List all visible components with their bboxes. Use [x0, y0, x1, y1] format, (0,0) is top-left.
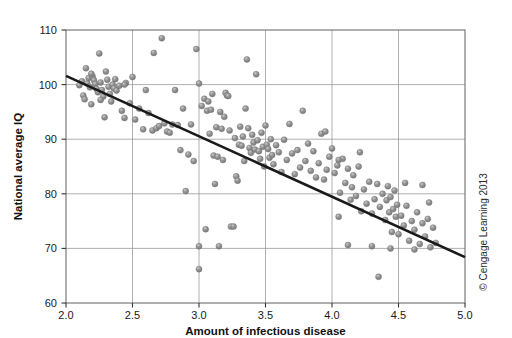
- data-point: [276, 149, 282, 155]
- data-point: [98, 79, 104, 85]
- data-point: [336, 157, 342, 163]
- data-point: [357, 149, 363, 155]
- data-point: [219, 126, 225, 132]
- data-point: [402, 180, 408, 186]
- data-point: [209, 91, 215, 97]
- scatter-plot: 2.02.53.03.54.04.55.060708090100110 Amou…: [0, 0, 512, 338]
- data-point: [244, 56, 250, 62]
- data-point: [374, 181, 380, 187]
- data-point: [350, 172, 356, 178]
- data-point: [253, 71, 259, 77]
- data-point: [191, 158, 197, 164]
- data-point: [196, 266, 202, 272]
- data-point: [196, 243, 202, 249]
- data-point: [240, 133, 246, 139]
- data-point: [377, 204, 383, 210]
- data-point: [232, 135, 238, 141]
- data-point: [245, 125, 251, 131]
- data-point: [83, 65, 89, 71]
- data-point: [334, 162, 340, 168]
- data-point: [294, 147, 300, 153]
- data-point: [82, 96, 88, 102]
- data-points: [76, 35, 438, 280]
- data-point: [122, 82, 128, 88]
- data-point: [326, 154, 332, 160]
- y-axis-title: National average IQ: [12, 113, 24, 220]
- data-point: [130, 74, 136, 80]
- data-point: [414, 209, 420, 215]
- data-point: [369, 243, 375, 249]
- data-point: [361, 186, 367, 192]
- data-point: [103, 69, 109, 75]
- data-point: [389, 229, 395, 235]
- data-point: [427, 244, 433, 250]
- data-point: [207, 131, 213, 137]
- data-point: [394, 202, 400, 208]
- x-tick-label: 5.0: [457, 309, 472, 321]
- data-point: [396, 231, 402, 237]
- y-tick-label: 70: [45, 242, 57, 254]
- data-point: [353, 193, 359, 199]
- data-point: [119, 108, 125, 114]
- data-point: [225, 93, 231, 99]
- data-point: [167, 130, 173, 136]
- x-tick-label: 3.0: [191, 309, 206, 321]
- data-point: [336, 214, 342, 220]
- credit-line: © Cengage Learning 2013: [478, 173, 489, 291]
- data-point: [345, 242, 351, 248]
- data-point: [143, 87, 149, 93]
- data-point: [112, 76, 118, 82]
- data-point: [172, 87, 178, 93]
- data-point: [96, 50, 102, 56]
- data-point: [177, 147, 183, 153]
- data-point: [322, 129, 328, 135]
- data-point: [156, 123, 162, 129]
- data-point: [185, 151, 191, 157]
- data-point: [263, 123, 269, 129]
- data-point: [286, 121, 292, 127]
- data-point: [308, 168, 314, 174]
- y-tick-label: 80: [45, 188, 57, 200]
- data-point: [409, 218, 415, 224]
- data-point: [140, 126, 146, 132]
- data-point: [205, 99, 211, 105]
- data-point: [297, 165, 303, 171]
- data-point: [220, 157, 226, 163]
- data-point: [196, 81, 202, 87]
- data-point: [425, 216, 431, 222]
- data-point: [108, 99, 114, 105]
- data-point: [310, 148, 316, 154]
- data-point: [203, 226, 209, 232]
- data-point: [388, 194, 394, 200]
- data-point: [270, 161, 276, 167]
- data-point: [419, 182, 425, 188]
- data-point: [426, 200, 432, 206]
- data-point: [104, 77, 110, 83]
- data-point: [215, 154, 221, 160]
- data-point: [88, 71, 94, 77]
- data-point: [122, 115, 128, 121]
- data-point: [300, 108, 306, 114]
- data-point: [188, 121, 194, 127]
- data-point: [316, 160, 322, 166]
- data-point: [193, 46, 199, 52]
- data-point: [98, 97, 104, 103]
- data-point: [345, 166, 351, 172]
- data-point: [102, 114, 108, 120]
- data-point: [249, 132, 255, 138]
- data-point: [342, 180, 348, 186]
- data-point: [372, 196, 378, 202]
- data-point: [398, 213, 404, 219]
- data-point: [159, 35, 165, 41]
- data-point: [392, 188, 398, 194]
- data-point: [305, 141, 311, 147]
- x-tick-label: 4.0: [324, 309, 339, 321]
- data-point: [284, 157, 290, 163]
- data-point: [324, 167, 330, 173]
- x-tick-label: 2.0: [58, 309, 73, 321]
- data-point: [259, 130, 265, 136]
- data-point: [231, 224, 237, 230]
- data-point: [180, 106, 186, 112]
- data-point: [151, 50, 157, 56]
- data-point: [235, 178, 241, 184]
